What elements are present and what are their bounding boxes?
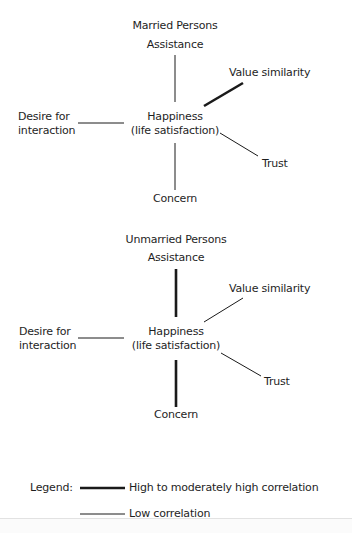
unmarried-node-concern: Concern — [136, 408, 216, 422]
unmarried-edge-value-similarity — [204, 298, 243, 322]
married-node-value-similarity: Value similarity — [229, 66, 310, 80]
unmarried-node-value-similarity: Value similarity — [229, 282, 310, 296]
married-panel-title: Married Persons — [125, 19, 225, 33]
married-desire-line1: Desire for — [18, 110, 75, 124]
unmarried-node-desire: Desire for interaction — [19, 325, 76, 353]
page-bottom-edge — [0, 518, 352, 533]
married-desire-line2: interaction — [18, 124, 75, 138]
unmarried-node-trust: Trust — [264, 375, 290, 389]
unmarried-center-line1: Happiness — [126, 325, 226, 339]
married-center-node: Happiness (life satisfaction) — [125, 110, 225, 138]
unmarried-panel-title: Unmarried Persons — [116, 233, 236, 247]
legend-high-label: High to moderately high correlation — [129, 481, 318, 495]
unmarried-desire-line1: Desire for — [19, 325, 76, 339]
married-center-line1: Happiness — [125, 110, 225, 124]
married-node-trust: Trust — [262, 157, 288, 171]
unmarried-node-assistance: Assistance — [136, 251, 216, 265]
unmarried-edge-trust — [221, 353, 261, 376]
married-center-line2: (life satisfaction) — [125, 124, 225, 138]
unmarried-center-node: Happiness (life satisfaction) — [126, 325, 226, 353]
unmarried-center-line2: (life satisfaction) — [126, 339, 226, 353]
married-node-concern: Concern — [135, 192, 215, 206]
unmarried-desire-line2: interaction — [19, 339, 76, 353]
married-node-desire: Desire for interaction — [18, 110, 75, 138]
married-node-assistance: Assistance — [135, 38, 215, 52]
married-edge-trust — [220, 133, 258, 156]
legend-prefix: Legend: — [30, 481, 73, 495]
married-edge-value-similarity — [204, 83, 243, 106]
